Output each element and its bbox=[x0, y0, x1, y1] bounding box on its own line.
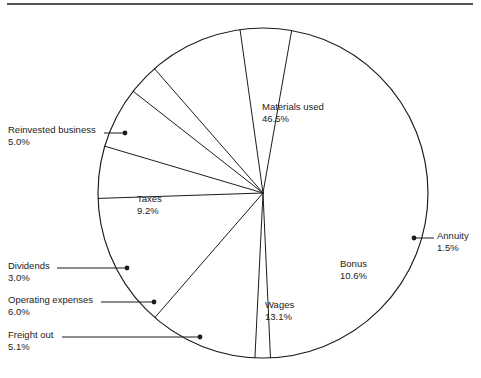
leader-line-group bbox=[57, 131, 434, 340]
slice-label-reinvested-business: Reinvested business5.0% bbox=[8, 124, 96, 147]
slice-label-bonus: Bonus10.6% bbox=[340, 258, 367, 281]
slice-label-name: Materials used bbox=[262, 101, 324, 112]
slice-label-dividends: Dividends3.0% bbox=[8, 260, 50, 283]
slice-label-name: Annuity bbox=[437, 230, 469, 241]
slice-label-name: Freight out bbox=[8, 329, 54, 340]
slice-label-name: Operating expenses bbox=[8, 294, 93, 305]
slice-label-value: 46.5% bbox=[262, 113, 289, 124]
slice-label-annuity: Annuity1.5% bbox=[437, 230, 469, 253]
slice-label-group: Materials used46.5%Annuity1.5%Bonus10.6%… bbox=[8, 101, 469, 352]
leader-dot-annuity bbox=[412, 236, 417, 241]
leader-dot-operating-expenses bbox=[152, 300, 157, 305]
slice-label-value: 13.1% bbox=[265, 311, 292, 322]
slice-label-name: Bonus bbox=[340, 258, 367, 269]
slice-label-value: 1.5% bbox=[437, 242, 459, 253]
wedge-boundary-freight-out bbox=[98, 193, 263, 198]
slice-label-materials-used: Materials used46.5% bbox=[262, 101, 324, 124]
slice-label-taxes: Taxes9.2% bbox=[137, 193, 162, 216]
wedge-boundary-group bbox=[98, 30, 292, 358]
wedge-boundary-dividends bbox=[133, 91, 263, 193]
slice-label-value: 5.1% bbox=[8, 341, 30, 352]
wedge-boundary-operating-expenses bbox=[105, 146, 263, 193]
slice-label-wages: Wages13.1% bbox=[265, 299, 294, 322]
pie-chart-figure: Materials used46.5%Annuity1.5%Bonus10.6%… bbox=[0, 0, 481, 378]
pie-chart-svg: Materials used46.5%Annuity1.5%Bonus10.6%… bbox=[0, 0, 481, 378]
wedge-boundary-annuity bbox=[263, 193, 270, 358]
slice-label-value: 6.0% bbox=[8, 306, 30, 317]
leader-dot-freight-out bbox=[198, 335, 203, 340]
slice-label-name: Wages bbox=[265, 299, 294, 310]
wedge-boundary-reinvested-business bbox=[240, 30, 263, 193]
slice-label-name: Reinvested business bbox=[8, 124, 96, 135]
wedge-boundary-wages bbox=[155, 193, 263, 318]
wedge-boundary-bonus bbox=[255, 193, 263, 358]
slice-label-value: 10.6% bbox=[340, 270, 367, 281]
wedge-boundary-taxes bbox=[154, 69, 263, 193]
leader-dot-reinvested-business bbox=[123, 131, 128, 136]
slice-label-value: 3.0% bbox=[8, 272, 30, 283]
leader-dot-dividends bbox=[125, 266, 130, 271]
slice-label-value: 5.0% bbox=[8, 136, 30, 147]
slice-label-freight-out: Freight out5.1% bbox=[8, 329, 54, 352]
slice-label-value: 9.2% bbox=[137, 205, 159, 216]
slice-label-operating-expenses: Operating expenses6.0% bbox=[8, 294, 93, 317]
slice-label-name: Dividends bbox=[8, 260, 50, 271]
slice-label-name: Taxes bbox=[137, 193, 162, 204]
